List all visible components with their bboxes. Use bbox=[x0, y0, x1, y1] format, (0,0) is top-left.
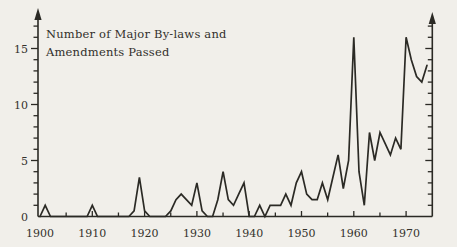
data-polyline-major-bylaws-and-amendments-passed bbox=[40, 37, 427, 216]
x-tick-label: 1950 bbox=[288, 227, 316, 240]
chart-title: Number of Major By-laws and Amendments P… bbox=[46, 26, 227, 61]
y-axis-right bbox=[425, 12, 436, 217]
x-tick-label: 1970 bbox=[392, 227, 420, 240]
y-tick-label: 15 bbox=[14, 43, 28, 56]
y-axis-left bbox=[31, 8, 42, 217]
x-tick-label: 1910 bbox=[78, 227, 106, 240]
up-arrow-icon bbox=[429, 12, 436, 24]
x-tick-label: 1930 bbox=[183, 227, 211, 240]
up-arrow-icon bbox=[34, 8, 41, 20]
x-tick-label: 1940 bbox=[235, 227, 263, 240]
y-tick-labels: 051015 bbox=[14, 43, 28, 224]
chart-title-line-1: Number of Major By-laws and bbox=[46, 26, 227, 44]
y-tick-label: 10 bbox=[14, 99, 28, 112]
x-tick-label: 1900 bbox=[26, 227, 54, 240]
y-tick-label: 0 bbox=[21, 211, 28, 224]
x-tick-label: 1920 bbox=[131, 227, 159, 240]
x-tick-label: 1960 bbox=[340, 227, 368, 240]
chart-title-line-2: Amendments Passed bbox=[46, 44, 227, 62]
y-tick-label: 5 bbox=[21, 155, 28, 168]
bylaws-line-chart: 19001910192019301940195019601970051015 N… bbox=[0, 0, 457, 247]
x-tick-labels: 19001910192019301940195019601970 bbox=[26, 227, 420, 240]
